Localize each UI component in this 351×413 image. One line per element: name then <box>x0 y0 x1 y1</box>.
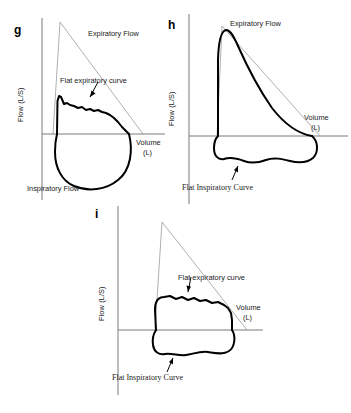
panel-g: g Flow (L/S) Expiratory Flow Flat expira… <box>0 0 175 208</box>
panel-h-plot <box>160 0 351 208</box>
label-expiratory-flow-h: Expiratory Flow <box>230 19 281 28</box>
inspiratory-curve-i <box>153 330 235 355</box>
x-axis-label-h: Volume (L) <box>304 113 329 133</box>
x-axis-label-text-h: Volume <box>304 113 329 122</box>
x-axis-unit-g: (L) <box>136 148 161 158</box>
label-flat-expiratory-curve-i: Flat expiratory curve <box>178 273 245 282</box>
label-flat-expiratory-curve-g: Flat expiratory curve <box>60 76 127 85</box>
label-expiratory-flow-g: Expiratory Flow <box>88 29 139 38</box>
flow-volume-loop-figure: g Flow (L/S) Expiratory Flow Flat expira… <box>0 0 351 413</box>
x-axis-unit-h: (L) <box>304 123 329 133</box>
expiratory-curve-g <box>57 96 129 134</box>
x-axis-label-text-g: Volume <box>136 138 161 147</box>
x-axis-label-text-i: Volume <box>236 303 261 312</box>
x-axis-label-g: Volume (L) <box>136 138 161 158</box>
expiratory-curve-i <box>155 296 232 330</box>
x-axis-unit-i: (L) <box>236 313 261 323</box>
annotation-arrowhead-flat-expiratory-i <box>187 286 192 293</box>
inspiratory-curve-h <box>214 136 317 163</box>
x-axis-label-i: Volume (L) <box>236 303 261 323</box>
annotation-arrowhead-flat-expiratory-g <box>90 91 96 98</box>
y-axis-label-g: Flow (L/S) <box>16 87 25 122</box>
expiratory-curve-h <box>218 30 312 136</box>
inspiratory-curve-g <box>55 134 131 189</box>
panel-h: h Flow (L/S) Expiratory Flow Flat Inspir… <box>160 0 351 208</box>
label-flat-inspiratory-curve-h: Flat Inspiratory Curve <box>182 183 253 192</box>
panel-i: i Flow (L/S) Flat expiratory curve Flat … <box>88 200 351 413</box>
y-axis-label-h: Flow (L/S) <box>167 91 176 126</box>
label-flat-inspiratory-curve-i: Flat Inspiratory Curve <box>112 373 183 382</box>
label-inspiratory-flow-g: Inspiratory Flow <box>27 184 79 193</box>
y-axis-label-i: Flow (L/S) <box>97 286 106 321</box>
